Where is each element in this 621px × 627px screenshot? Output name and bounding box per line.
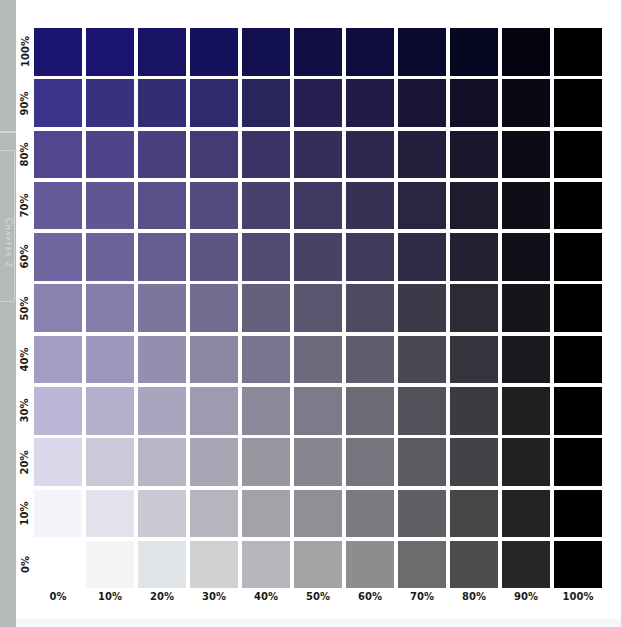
color-swatch: [450, 490, 498, 538]
color-swatch: [242, 284, 290, 332]
color-grid: [34, 28, 602, 588]
color-swatch: [554, 182, 602, 230]
color-swatch: [86, 79, 134, 127]
color-swatch: [294, 79, 342, 127]
color-swatch: [190, 284, 238, 332]
x-axis-label: 50%: [294, 591, 342, 602]
color-swatch: [242, 182, 290, 230]
color-swatch: [502, 28, 550, 76]
color-swatch: [34, 28, 82, 76]
color-swatch: [450, 131, 498, 179]
color-swatch: [86, 336, 134, 384]
y-axis-label: 80%: [16, 131, 34, 179]
color-swatch: [346, 541, 394, 589]
color-swatch: [138, 131, 186, 179]
x-axis-label: 10%: [86, 591, 134, 602]
color-swatch: [398, 284, 446, 332]
color-swatch: [554, 387, 602, 435]
y-axis-label-text: 0%: [19, 556, 30, 573]
color-swatch: [294, 438, 342, 486]
color-swatch: [86, 541, 134, 589]
color-swatch: [554, 28, 602, 76]
side-divider: [0, 131, 16, 133]
color-swatch: [138, 336, 186, 384]
x-axis-label: 40%: [242, 591, 290, 602]
color-swatch: [502, 182, 550, 230]
y-axis-label: 0%: [16, 541, 34, 589]
color-swatch: [346, 182, 394, 230]
x-axis-label: 30%: [190, 591, 238, 602]
color-swatch: [450, 387, 498, 435]
x-axis-label: 20%: [138, 591, 186, 602]
y-axis-label: 10%: [16, 490, 34, 538]
color-swatch: [346, 387, 394, 435]
color-swatch: [34, 79, 82, 127]
color-swatch: [450, 336, 498, 384]
color-swatch: [138, 182, 186, 230]
color-swatch: [138, 490, 186, 538]
color-swatch: [450, 79, 498, 127]
color-swatch: [398, 131, 446, 179]
color-swatch: [86, 490, 134, 538]
color-swatch: [190, 438, 238, 486]
color-swatch: [138, 233, 186, 281]
color-swatch: [450, 438, 498, 486]
x-axis-labels: 0%10%20%30%40%50%60%70%80%90%100%: [34, 591, 602, 602]
y-axis-label-text: 10%: [20, 501, 31, 525]
color-swatch: [554, 79, 602, 127]
color-swatch: [86, 438, 134, 486]
color-swatch: [242, 438, 290, 486]
color-swatch: [242, 336, 290, 384]
chapter-tab-label: Chapter 2: [4, 218, 13, 232]
color-swatch: [86, 233, 134, 281]
y-axis-label: 20%: [16, 438, 34, 486]
color-swatch: [138, 387, 186, 435]
color-swatch: [34, 541, 82, 589]
color-swatch: [398, 490, 446, 538]
color-swatch: [34, 233, 82, 281]
color-swatch: [346, 284, 394, 332]
color-swatch: [294, 541, 342, 589]
color-swatch: [398, 182, 446, 230]
y-axis-label: 40%: [16, 336, 34, 384]
bottom-strip: [16, 619, 621, 627]
color-swatch: [502, 541, 550, 589]
color-swatch: [294, 28, 342, 76]
color-swatch: [138, 438, 186, 486]
color-swatch: [502, 79, 550, 127]
y-axis-label: 30%: [16, 387, 34, 435]
color-swatch: [398, 28, 446, 76]
color-swatch: [86, 284, 134, 332]
color-swatch: [34, 336, 82, 384]
color-swatch: [190, 28, 238, 76]
x-axis-label: 80%: [450, 591, 498, 602]
color-swatch: [242, 28, 290, 76]
x-axis-label: 60%: [346, 591, 394, 602]
color-swatch: [554, 233, 602, 281]
color-swatch: [346, 28, 394, 76]
color-swatch: [190, 182, 238, 230]
color-swatch: [190, 79, 238, 127]
color-swatch: [294, 182, 342, 230]
y-axis-label-text: 60%: [20, 245, 31, 269]
color-swatch: [450, 284, 498, 332]
x-axis-label: 100%: [554, 591, 602, 602]
color-swatch: [242, 387, 290, 435]
color-swatch: [346, 233, 394, 281]
color-swatch: [294, 131, 342, 179]
y-axis-label: 50%: [16, 285, 34, 333]
x-axis-label: 0%: [34, 591, 82, 602]
y-axis-label: 90%: [16, 79, 34, 127]
color-swatch: [502, 438, 550, 486]
color-swatch: [242, 233, 290, 281]
color-swatch: [34, 284, 82, 332]
color-swatch: [34, 438, 82, 486]
x-axis-label: 90%: [502, 591, 550, 602]
y-axis-label-text: 50%: [20, 296, 31, 320]
color-swatch: [450, 541, 498, 589]
color-swatch: [554, 438, 602, 486]
color-swatch: [34, 490, 82, 538]
color-swatch: [502, 490, 550, 538]
color-swatch: [86, 182, 134, 230]
color-swatch: [190, 131, 238, 179]
